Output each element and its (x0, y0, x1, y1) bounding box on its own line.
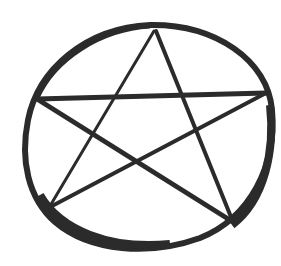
pentagram-icon (0, 0, 281, 266)
pentagram-drawing (0, 0, 281, 266)
